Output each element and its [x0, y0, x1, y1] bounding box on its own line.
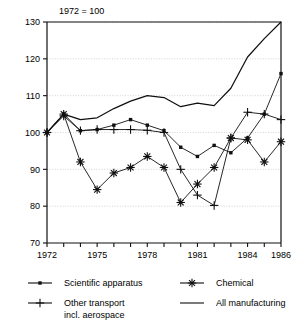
x-tick-label-1975: 1975	[87, 250, 107, 260]
y-tick-label-120: 120	[25, 54, 40, 64]
point-1-4	[110, 169, 118, 177]
point-1-12	[243, 136, 251, 144]
legend-label-0: Scientific apparatus	[64, 278, 143, 288]
chart-figure: 1972 = 100 708090100110120130 1972197519…	[0, 0, 304, 327]
y-tick-label-90: 90	[30, 165, 40, 175]
x-tick-label-1984: 1984	[238, 250, 258, 260]
point-0-8	[179, 146, 182, 149]
point-1-9	[193, 180, 201, 188]
figure-background	[0, 0, 304, 327]
legend-label-2: Other transport	[64, 298, 125, 308]
legend-label-3: All manufacturing	[216, 298, 286, 308]
y-tick-label-70: 70	[30, 238, 40, 248]
y-tick-label-80: 80	[30, 201, 40, 211]
point-1-2	[76, 158, 84, 166]
point-1-3	[93, 185, 101, 193]
legend-marker-asterisk-icon	[188, 279, 196, 287]
point-1-8	[177, 198, 185, 206]
chart-title: 1972 = 100	[59, 6, 104, 16]
point-0-11	[229, 151, 232, 154]
x-tick-label-1986: 1986	[271, 250, 291, 260]
legend-marker-square-icon	[38, 281, 41, 284]
y-tick-label-110: 110	[26, 91, 40, 101]
x-tick-label-1981: 1981	[187, 250, 207, 260]
x-tick-label-1978: 1978	[137, 250, 157, 260]
point-0-14	[279, 72, 282, 75]
point-1-13	[260, 158, 268, 166]
x-tick-label-1972: 1972	[37, 250, 57, 260]
point-0-10	[212, 144, 215, 147]
point-1-5	[126, 163, 134, 171]
point-1-14	[277, 138, 285, 146]
point-0-5	[129, 118, 132, 121]
legend-label-1: Chemical	[216, 278, 254, 288]
legend-label-2-line2: incl. aerospace	[64, 310, 125, 320]
point-1-7	[160, 163, 168, 171]
point-1-10	[210, 163, 218, 171]
y-tick-label-130: 130	[25, 17, 40, 27]
point-1-6	[143, 152, 151, 160]
y-tick-label-100: 100	[25, 128, 40, 138]
point-0-9	[196, 155, 199, 158]
